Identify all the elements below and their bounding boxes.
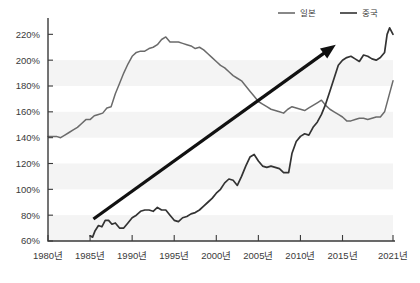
- x-axis-tick-label: 2021년: [378, 250, 408, 261]
- y-axis-tick-label: 120%: [16, 158, 41, 169]
- y-axis-tick-label: 160%: [16, 106, 41, 117]
- y-axis-tick-label: 200%: [16, 55, 41, 66]
- legend-label-china[interactable]: 중국: [362, 8, 378, 18]
- x-axis-tick-labels: 1980년1985년1990년1995년2000년2005년2010년2015년…: [33, 250, 408, 261]
- x-axis-tick-label: 1980년: [33, 250, 63, 261]
- y-axis-tick-label: 100%: [16, 184, 41, 195]
- legend-label-japan[interactable]: 일본: [300, 8, 316, 18]
- chart-band: [48, 164, 393, 190]
- y-axis-tick-label: 80%: [21, 210, 41, 221]
- x-axis-tick-label: 2005년: [243, 250, 273, 261]
- x-axis-tick-label: 2000년: [201, 250, 231, 261]
- x-axis-tick-label: 1995년: [159, 250, 189, 261]
- x-axis-tick-label: 2015년: [327, 250, 357, 261]
- y-axis-tick-label: 220%: [16, 29, 41, 40]
- y-axis-tick-label: 180%: [16, 80, 41, 91]
- y-axis-tick-label: 60%: [21, 235, 41, 246]
- x-axis-tick-label: 1985년: [75, 250, 105, 261]
- chart-band: [48, 60, 393, 86]
- y-axis-tick-label: 140%: [16, 132, 41, 143]
- chart-band: [48, 215, 393, 241]
- x-axis-tick-label: 2010년: [285, 250, 315, 261]
- x-axis-tick-label: 1990년: [117, 250, 147, 261]
- line-chart: 60%80%100%120%140%160%180%200%220% 1980년…: [0, 0, 420, 283]
- chart-container: 60%80%100%120%140%160%180%200%220% 1980년…: [0, 0, 420, 283]
